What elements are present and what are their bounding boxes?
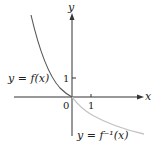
- x-tick-label: 1: [88, 100, 94, 111]
- y-axis-label: y: [67, 1, 75, 14]
- f-curve-label: y = f(x): [7, 72, 49, 85]
- y-tick-label: 1: [63, 73, 69, 84]
- origin-label: 0: [63, 100, 69, 111]
- x-axis-arrow-icon: [137, 95, 144, 100]
- graph-diagram: y x 0 1 1 y = f(x) y = f⁻¹(x): [0, 0, 159, 150]
- f-inverse-curve-label: y = f⁻¹(x): [76, 129, 129, 142]
- y-axis-arrow-icon: [70, 13, 75, 20]
- x-axis-label: x: [145, 90, 152, 103]
